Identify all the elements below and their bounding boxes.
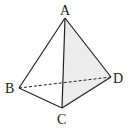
edge-bc <box>19 88 62 108</box>
vertex-label-b: B <box>5 81 14 96</box>
edge-ab <box>19 18 65 88</box>
vertex-label-a: A <box>60 3 71 18</box>
vertex-label-c: C <box>57 112 66 127</box>
shaded-face-acd <box>62 18 111 108</box>
vertex-label-d: D <box>113 71 123 86</box>
tetrahedron-figure: A B C D <box>0 0 134 130</box>
tetrahedron-diagram: A B C D <box>0 0 134 130</box>
